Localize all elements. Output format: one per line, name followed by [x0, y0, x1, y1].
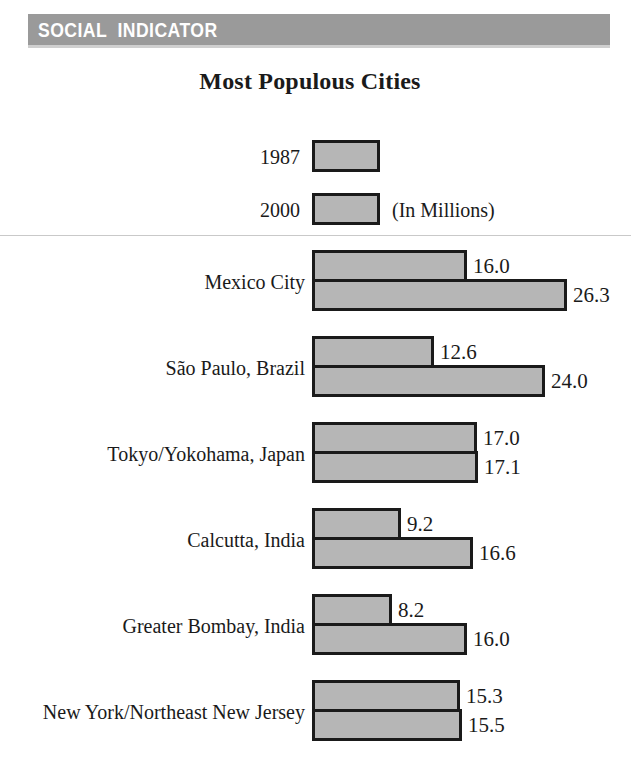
bar-1987 — [312, 422, 477, 454]
chart-row: New York/Northeast New Jersey15.315.5 — [0, 680, 631, 744]
category-label: Tokyo/Yokohama, Japan — [107, 443, 305, 466]
category-label: Greater Bombay, India — [122, 615, 305, 638]
bar-group: 16.026.3 — [312, 250, 631, 314]
bar-value-label: 16.0 — [467, 254, 510, 279]
bar-value-label: 17.0 — [477, 426, 520, 451]
bar-value-label: 12.6 — [434, 340, 477, 365]
bar-2000 — [312, 709, 462, 741]
chart-row: Mexico City16.026.3 — [0, 250, 631, 314]
bar-2000 — [312, 537, 473, 569]
bar-value-label: 26.3 — [567, 283, 610, 308]
category-label: Calcutta, India — [187, 529, 305, 552]
category-label: São Paulo, Brazil — [166, 357, 305, 380]
bar-value-label: 16.0 — [467, 627, 510, 652]
chart-row: São Paulo, Brazil12.624.0 — [0, 336, 631, 400]
chart-row: Greater Bombay, India8.216.0 — [0, 594, 631, 658]
bar-value-label: 16.6 — [473, 541, 516, 566]
bar-1987 — [312, 336, 434, 368]
bar-value-label: 9.2 — [401, 512, 433, 537]
chart-plot-area: Mexico City16.026.3São Paulo, Brazil12.6… — [0, 0, 631, 774]
bar-2000 — [312, 279, 567, 311]
bar-value-label: 8.2 — [392, 598, 424, 623]
bar-group: 9.216.6 — [312, 508, 631, 572]
bar-group: 15.315.5 — [312, 680, 631, 744]
category-label: New York/Northeast New Jersey — [43, 701, 305, 724]
chart-row: Calcutta, India9.216.6 — [0, 508, 631, 572]
bar-1987 — [312, 508, 401, 540]
bar-group: 8.216.0 — [312, 594, 631, 658]
category-label: Mexico City — [204, 271, 305, 294]
bar-value-label: 17.1 — [478, 455, 521, 480]
bar-value-label: 15.5 — [462, 713, 505, 738]
bar-group: 12.624.0 — [312, 336, 631, 400]
bar-1987 — [312, 680, 460, 712]
bar-1987 — [312, 594, 392, 626]
bar-2000 — [312, 623, 467, 655]
bar-group: 17.017.1 — [312, 422, 631, 486]
bar-2000 — [312, 451, 478, 483]
bar-2000 — [312, 365, 545, 397]
bar-1987 — [312, 250, 467, 282]
bar-value-label: 15.3 — [460, 684, 503, 709]
chart-row: Tokyo/Yokohama, Japan17.017.1 — [0, 422, 631, 486]
bar-value-label: 24.0 — [545, 369, 588, 394]
